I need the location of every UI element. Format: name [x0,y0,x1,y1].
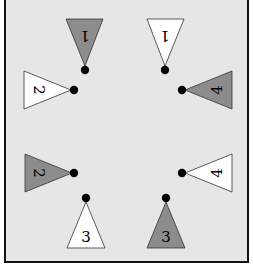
marker-label: 1 [160,27,170,45]
marker-label: 3 [161,228,171,246]
diagram-frame [5,0,248,262]
marker-label: 3 [81,228,91,246]
pin-dot [178,169,186,177]
pin-dot [70,86,78,94]
diagram-canvas: 1 1 2 4 2 4 [0,0,253,265]
pin-marker-diagram: 1 1 2 4 2 4 [0,0,253,265]
marker-label: 4 [208,168,226,178]
pin-dot [178,86,186,94]
pin-dot [161,66,169,74]
marker-label: 4 [208,85,226,95]
pin-dot [82,194,90,202]
marker-label: 2 [30,85,48,95]
pin-dot [162,194,170,202]
marker-label: 1 [80,27,90,45]
pin-dot [70,169,78,177]
marker-label: 2 [30,168,48,178]
pin-dot [81,66,89,74]
